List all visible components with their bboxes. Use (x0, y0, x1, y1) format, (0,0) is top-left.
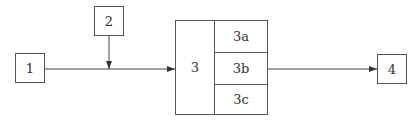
node-3a: 3a (214, 20, 268, 53)
node-2: 2 (94, 6, 124, 36)
node-3a-label: 3a (233, 29, 249, 44)
node-3-label: 3 (191, 60, 199, 75)
node-4: 4 (377, 54, 407, 84)
node-3b: 3b (214, 52, 268, 85)
node-3: 3 (175, 20, 215, 115)
node-4-label: 4 (388, 62, 396, 77)
node-1: 1 (15, 53, 45, 83)
node-3c-label: 3c (233, 92, 249, 107)
node-3b-label: 3b (233, 61, 250, 76)
node-2-label: 2 (105, 14, 113, 29)
node-1-label: 1 (26, 61, 34, 76)
node-3c: 3c (214, 84, 268, 115)
